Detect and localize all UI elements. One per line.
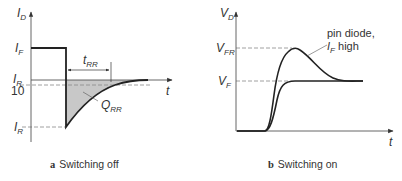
- y-axis-label-id: ID: [17, 6, 26, 22]
- label-vfr: VFR: [216, 41, 235, 57]
- note-pin-diode: pin diode,: [327, 27, 375, 39]
- voltage-curve-normal: [265, 81, 363, 131]
- label-ir-over-10-den: 10: [11, 84, 25, 98]
- label-if: IF: [15, 41, 24, 57]
- x-axis-label-t: t: [166, 84, 170, 98]
- label-trr: tRR: [83, 53, 98, 69]
- note-if-high: IF high: [327, 40, 359, 55]
- y-axis-label-vd: VD: [220, 6, 234, 22]
- diode-switching-diagram: ID IF IR 10 IR tRR QRR t aSwitching off …: [0, 0, 402, 181]
- pin-diode-leader-line: [307, 45, 327, 56]
- caption-switching-on: bSwitching on: [268, 158, 338, 170]
- panel-switching-on: VD VFR VF pin diode, IF high t bSwitchin…: [216, 6, 393, 170]
- label-qrr: QRR: [101, 98, 122, 114]
- x-axis-label-t: t: [389, 135, 393, 149]
- label-ir: IR: [14, 120, 23, 136]
- caption-switching-off: aSwitching off: [50, 158, 119, 170]
- label-vf: VF: [218, 74, 232, 90]
- panel-switching-off: ID IF IR 10 IR tRR QRR t aSwitching off: [11, 6, 172, 170]
